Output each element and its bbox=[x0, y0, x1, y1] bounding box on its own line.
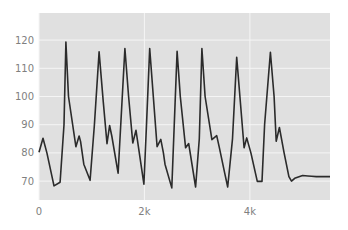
x-tick-label: 0 bbox=[36, 206, 42, 217]
x-tick-label: 4k bbox=[244, 206, 256, 217]
y-axis-ticks: 708090100110120 bbox=[15, 35, 34, 187]
y-tick-label: 70 bbox=[21, 176, 34, 187]
y-tick-label: 120 bbox=[15, 35, 34, 46]
x-axis-ticks: 02k4k bbox=[36, 206, 256, 217]
x-tick-label: 2k bbox=[138, 206, 150, 217]
plot-background bbox=[39, 13, 330, 200]
y-tick-label: 110 bbox=[15, 63, 34, 74]
y-tick-label: 100 bbox=[15, 91, 34, 102]
y-tick-label: 90 bbox=[21, 119, 34, 130]
line-chart: 708090100110120 02k4k bbox=[0, 0, 348, 230]
y-tick-label: 80 bbox=[21, 147, 34, 158]
